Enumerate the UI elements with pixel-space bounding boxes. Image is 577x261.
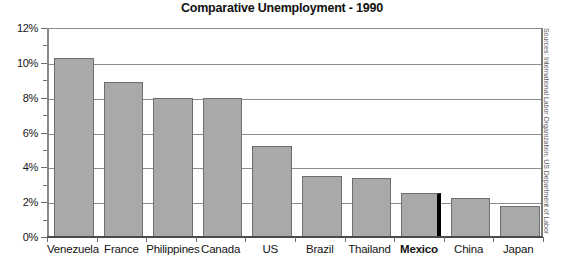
x-axis-tick [146,237,147,242]
y-axis-label: 12% [17,22,38,34]
x-axis-tick [245,237,246,242]
bar-japan [500,206,540,237]
x-axis-label-mexico: Mexico [394,243,444,255]
x-axis-label-china: China [444,243,494,255]
bar-france [104,82,144,237]
x-axis-label-japan: Japan [493,243,543,255]
y-axis-label: 2% [23,196,38,208]
bars-layer [49,29,541,237]
x-axis-tick [543,237,544,242]
chart-title: Comparative Unemployment - 1990 [0,1,564,15]
bar-canada [203,98,243,237]
x-axis-label-philippines: Philippines [146,243,196,255]
x-axis-tick [345,237,346,242]
unemployment-bar-chart: Comparative Unemployment - 1990 0%2%4%6%… [0,0,577,261]
x-axis-label-france: France [97,243,147,255]
y-axis: 0%2%4%6%8%10%12% [0,28,47,237]
y-axis-label: 8% [23,92,38,104]
x-axis-label-thailand: Thailand [345,243,395,255]
x-axis-tick [394,237,395,242]
x-axis-tick [196,237,197,242]
bar-mexico [401,193,441,237]
x-axis-tick [97,237,98,242]
y-axis-label: 6% [23,127,38,139]
x-axis-tick [493,237,494,242]
x-axis-label-us: US [245,243,295,255]
y-axis-label: 10% [17,57,38,69]
x-axis-label-canada: Canada [196,243,246,255]
bar-thailand [352,178,392,237]
y-axis-label: 0% [23,231,38,243]
x-axis-label-brazil: Brazil [295,243,345,255]
bar-philippines [153,98,193,237]
x-axis-tick [444,237,445,242]
bar-us [252,146,292,237]
plot-area [47,28,543,237]
y-axis-label: 4% [23,161,38,173]
bar-china [451,198,491,237]
x-axis-tick [295,237,296,242]
source-note: Sources: International Labor Organizatio… [539,28,553,237]
bar-venezuela [54,58,94,237]
bar-brazil [302,176,342,237]
x-axis-tick [47,237,48,242]
x-axis-label-venezuela: Venezuela [47,243,97,255]
